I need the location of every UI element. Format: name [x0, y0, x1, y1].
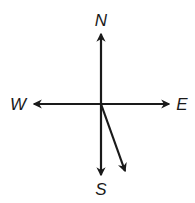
south-label: S [95, 181, 106, 198]
east-label: E [176, 96, 187, 113]
vector-arrow [101, 104, 125, 171]
compass-diagram [0, 0, 195, 203]
west-label: W [10, 96, 26, 113]
north-label: N [95, 12, 107, 29]
